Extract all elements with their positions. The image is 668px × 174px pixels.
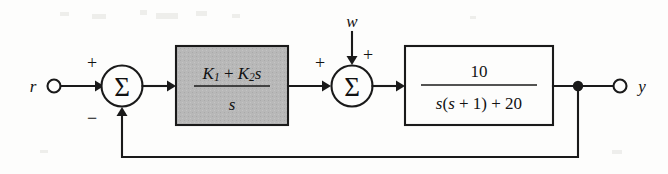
summer1-minus-sign: − bbox=[87, 108, 97, 128]
summer1-plus-sign: + bbox=[87, 53, 97, 73]
summer2-plus-sign-disturbance: + bbox=[363, 45, 373, 65]
arrowhead-into-plant bbox=[396, 81, 405, 92]
summer2-sigma: Σ bbox=[344, 72, 360, 102]
input-terminal bbox=[48, 80, 61, 93]
output-label-y: y bbox=[636, 77, 646, 96]
arrowhead-into-controller bbox=[167, 81, 176, 92]
arrowhead-feedback-into-summer1 bbox=[117, 107, 128, 116]
controller-denominator: s bbox=[229, 95, 236, 114]
plant-denominator: s(s + 1) + 20 bbox=[436, 94, 522, 113]
arrowhead-disturbance bbox=[347, 56, 358, 65]
disturbance-label-w: w bbox=[346, 12, 358, 31]
summer2-plus-sign-forward: + bbox=[315, 53, 325, 73]
input-label-r: r bbox=[30, 77, 37, 96]
block-diagram: r Σ + − K1 + K2s s w Σ + + bbox=[0, 0, 668, 174]
arrowhead-into-summer2 bbox=[322, 81, 331, 92]
plant-numerator: 10 bbox=[471, 62, 488, 81]
summer1-sigma: Σ bbox=[114, 72, 130, 102]
output-terminal bbox=[614, 80, 627, 93]
